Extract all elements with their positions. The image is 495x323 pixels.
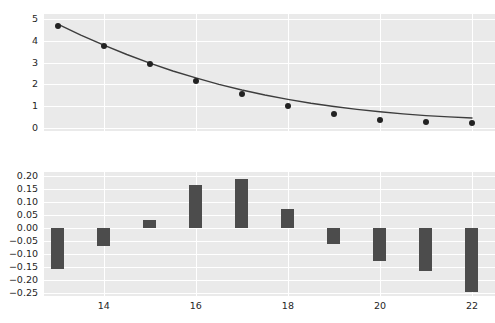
gridline-horizontal (44, 189, 495, 190)
bar (419, 228, 432, 271)
bar (51, 228, 64, 268)
gridline-vertical (288, 172, 289, 296)
bar (465, 228, 478, 292)
bar (189, 185, 202, 228)
bar (97, 228, 110, 246)
y-tick-label: −0.15 (9, 262, 38, 272)
scatter-point (101, 43, 107, 49)
scatter-point (239, 91, 245, 97)
x-tick-label: 14 (84, 301, 124, 311)
y-tick-label: 0.05 (17, 210, 38, 220)
bar (327, 228, 340, 244)
gridline-horizontal (44, 293, 495, 294)
x-tick-label: 18 (268, 301, 308, 311)
gridline-horizontal (44, 202, 495, 203)
scatter-point (423, 119, 429, 125)
gridline-horizontal (44, 280, 495, 281)
scatter-point (377, 117, 383, 123)
figure-canvas: 012345 −0.25−0.20−0.15−0.10−0.050.000.05… (0, 0, 495, 323)
scatter-point (55, 23, 61, 29)
x-tick-label: 20 (360, 301, 400, 311)
y-tick-label: −0.20 (9, 275, 38, 285)
y-tick-label: 0.15 (17, 184, 38, 194)
bottom-chart-y-axis-ticks: −0.25−0.20−0.15−0.10−0.050.000.050.100.1… (0, 0, 38, 323)
gridline-horizontal (44, 215, 495, 216)
scatter-point (193, 78, 199, 84)
y-tick-label: 0.10 (17, 197, 38, 207)
bar (373, 228, 386, 261)
y-tick-label: −0.05 (9, 236, 38, 246)
scatter-point (285, 103, 291, 109)
fitted-curve (44, 14, 495, 131)
bottom-chart-axes (44, 172, 495, 296)
gridline-horizontal (44, 176, 495, 177)
y-tick-label: −0.10 (9, 249, 38, 259)
x-tick-label: 22 (452, 301, 492, 311)
top-chart-axes (44, 14, 495, 131)
bar (143, 220, 156, 228)
y-tick-label: 0.00 (17, 223, 38, 233)
y-tick-label: 0.20 (17, 171, 38, 181)
y-tick-label: −0.25 (9, 288, 38, 298)
bar (235, 179, 248, 229)
bar (281, 209, 294, 229)
x-tick-label: 16 (176, 301, 216, 311)
